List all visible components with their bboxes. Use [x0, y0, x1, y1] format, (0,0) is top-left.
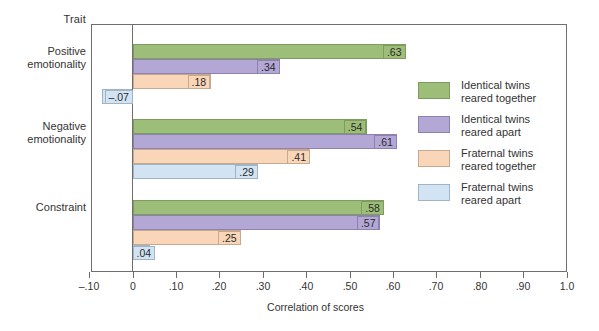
x-axis-tick — [263, 272, 264, 278]
bar-value-label: .18 — [188, 75, 211, 89]
x-axis-tick — [480, 272, 481, 278]
x-axis-tick-label: .30 — [256, 280, 271, 292]
x-axis-tick-label: .50 — [343, 280, 358, 292]
bar-value-label: .58 — [361, 201, 384, 215]
x-axis-tick — [350, 272, 351, 278]
legend-label-line: reared together — [461, 92, 536, 105]
legend-label-line: reared together — [461, 160, 536, 173]
legend-swatch — [418, 82, 450, 99]
x-axis-tick-label: .90 — [516, 280, 531, 292]
x-axis-tick — [133, 272, 134, 278]
legend-label: Identical twinsreared apart — [461, 113, 530, 138]
x-axis-tick — [306, 272, 307, 278]
bar-value-label: .41 — [287, 150, 310, 164]
legend-label: Identical twinsreared together — [461, 79, 536, 104]
bar-value-label: .63 — [383, 45, 406, 59]
bar-value-label: .54 — [344, 120, 367, 134]
bar-value-label: .57 — [357, 216, 380, 230]
legend-label: Fraternal twinsreared apart — [461, 181, 533, 206]
bar-value-label: –.07 — [105, 90, 133, 104]
bar-value-label: .29 — [235, 165, 258, 179]
x-axis-tick-label: .60 — [386, 280, 401, 292]
bar-value-label: .61 — [374, 135, 397, 149]
x-axis-tick-label: .40 — [299, 280, 314, 292]
x-axis-title-text: Correlation of scores — [267, 301, 364, 313]
legend-swatch — [418, 150, 450, 167]
x-axis-tick-label: 0 — [130, 280, 136, 292]
bar — [133, 119, 367, 134]
legend-swatch — [418, 116, 450, 133]
x-axis-title: Correlation of scores — [0, 301, 599, 313]
bar — [133, 134, 398, 149]
twin-correlation-bar-chart: Trait Positive emotionality Negative emo… — [0, 0, 599, 331]
x-axis-tick-label: –.10 — [79, 280, 99, 292]
x-axis-tick-label: .20 — [212, 280, 227, 292]
legend-swatch — [418, 184, 450, 201]
legend-label-line: Identical twins — [461, 79, 536, 92]
bar — [133, 44, 406, 59]
x-axis-tick — [89, 272, 90, 278]
x-axis-tick — [567, 272, 568, 278]
x-axis-tick — [176, 272, 177, 278]
x-axis-tick-label: .70 — [429, 280, 444, 292]
legend-label-line: Identical twins — [461, 113, 530, 126]
bar-value-label: .25 — [218, 231, 241, 245]
bar — [133, 200, 385, 215]
bar — [133, 149, 311, 164]
bar-value-label: .34 — [257, 60, 280, 74]
x-axis-tick-label: .80 — [473, 280, 488, 292]
x-axis-tick — [436, 272, 437, 278]
bar — [133, 215, 380, 230]
x-axis-tick — [219, 272, 220, 278]
x-axis-tick-label: 1.0 — [560, 280, 575, 292]
x-axis-tick-label: .10 — [169, 280, 184, 292]
legend-label-line: Fraternal twins — [461, 147, 536, 160]
legend-label-line: Fraternal twins — [461, 181, 533, 194]
x-axis-tick — [523, 272, 524, 278]
legend-label-line: reared apart — [461, 126, 530, 139]
legend-label: Fraternal twinsreared together — [461, 147, 536, 172]
bar-value-label: .04 — [133, 246, 156, 260]
legend-label-line: reared apart — [461, 194, 533, 207]
x-axis-tick — [393, 272, 394, 278]
